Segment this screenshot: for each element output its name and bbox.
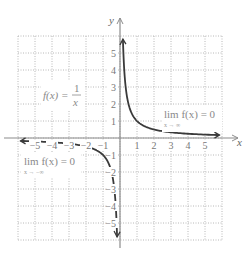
x-tick-label: −5	[30, 140, 41, 151]
x-tick-label: −2	[81, 140, 92, 151]
function-label: f(x) = 1 x	[41, 80, 85, 110]
y-tick-label: 5	[111, 48, 116, 59]
y-tick-label: 3	[111, 82, 116, 93]
y-tick-label: 2	[111, 99, 116, 110]
x-tick-label: 2	[152, 140, 157, 151]
y-tick-label: −3	[105, 184, 116, 195]
y-tick-label: −1	[105, 150, 116, 161]
x-tick-label: 3	[169, 140, 174, 151]
chart-svg: −5−4−3−2−112345−5−4−3−2−112345 y x f(x) …	[0, 0, 250, 255]
function-label-denominator: x	[72, 96, 78, 108]
limit-positive-infinity: lim f(x) = 0 x → ∞	[162, 106, 222, 132]
limit-negative-main: lim f(x) = 0	[24, 155, 76, 168]
x-tick-label: 5	[203, 140, 208, 151]
x-tick-label: −3	[64, 140, 75, 151]
x-tick-label: −4	[47, 140, 58, 151]
limit-positive-sub: x → ∞	[164, 122, 180, 128]
y-tick-label: −5	[105, 218, 116, 229]
limit-negative-infinity: lim f(x) = 0 x → −∞	[21, 152, 81, 178]
y-tick-label: −4	[105, 201, 116, 212]
function-label-numerator: 1	[74, 82, 80, 94]
y-tick-label: 1	[111, 116, 116, 127]
limit-negative-sub: x → −∞	[24, 169, 44, 175]
y-tick-label: −2	[105, 167, 116, 178]
x-tick-label: 4	[186, 140, 191, 151]
limit-positive-main: lim f(x) = 0	[164, 108, 216, 121]
function-label-left: f(x) =	[43, 89, 68, 102]
x-axis-label: x	[236, 136, 242, 148]
y-axis-label: y	[108, 14, 114, 26]
y-tick-label: 4	[111, 65, 116, 76]
x-tick-label: 1	[135, 140, 140, 151]
